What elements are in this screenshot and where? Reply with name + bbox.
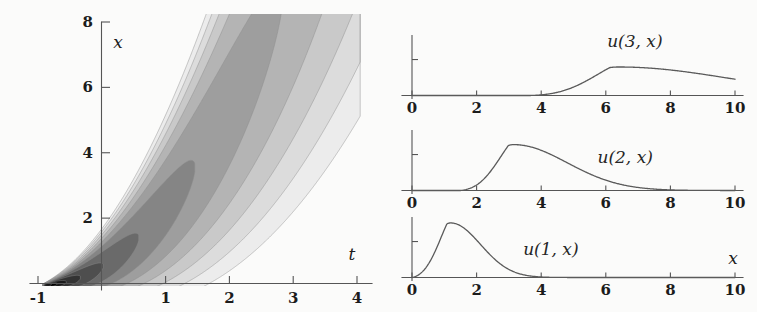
contour-x-tick-marks [102,22,111,218]
trace-x-tick-label: 10 [725,99,746,117]
trace-x-tick-label: 6 [601,99,611,117]
contour-x-tick-label: 6 [83,78,93,96]
trace-x-tick-label: 8 [665,99,675,117]
traces-svg: 0246810u(3, x) 0246810u(2, x) 0246810u(1… [400,0,757,312]
trace-subplot-u1: 0246810u(1, x) [402,218,745,299]
trace-x-tick-label: 6 [601,281,611,299]
trace-x-tick-label: 6 [601,194,611,212]
trace-x-tick-label: 10 [725,194,746,212]
trace-x-tick-label: 2 [471,281,481,299]
trace-x-tick-label: 4 [536,281,546,299]
trace-x-tick-label: 8 [665,281,675,299]
trace-x-tick-label: 10 [725,281,746,299]
contour-svg: -11234 2468 t x [0,0,400,312]
trace-x-tick-label: 0 [407,281,417,299]
contour-t-tick-label: 3 [288,289,298,307]
trace-x-tick-label: 0 [407,99,417,117]
contour-t-tick-labels: -11234 [30,289,363,307]
trace-x-tick-label: 0 [407,194,417,212]
contour-t-tick-label: -1 [30,289,47,307]
contour-t-tick-label: 1 [160,289,170,307]
trace-x-tick-label: 2 [471,99,481,117]
contour-x-tick-label: 2 [83,209,93,227]
trace-subplot-u3: 0246810u(3, x) [402,31,745,116]
contour-x-tick-label: 4 [83,144,93,162]
contour-x-tick-label: 8 [83,13,93,31]
trace-subplot-u2: 0246810u(2, x) [402,131,745,212]
figure-root: -11234 2468 t x 0246810u(3, x) 0246810u(… [0,0,757,312]
trace-label-u3x: u(3, x) [607,31,662,51]
trace-label-u2x: u(2, x) [597,147,652,167]
contour-t-tick-label: 4 [352,289,362,307]
trace-curve-u3x [412,67,735,96]
trace-x-tick-label: 8 [665,194,675,212]
trace-label-u1x: u(1, x) [523,239,578,259]
contour-x-tick-labels: 2468 [83,13,93,227]
traces-axis-label-x: x [728,248,738,268]
contour-axis-label-t: t [349,244,356,264]
contour-panel: -11234 2468 t x [0,0,400,312]
trace-x-tick-label: 4 [536,99,546,117]
contour-axis-label-x: x [113,32,123,52]
traces-panel: 0246810u(3, x) 0246810u(2, x) 0246810u(1… [400,0,757,312]
contour-t-tick-label: 2 [224,289,234,307]
trace-x-tick-label: 2 [471,194,481,212]
trace-x-tick-label: 4 [536,194,546,212]
trace-curve-u2x [412,145,735,191]
